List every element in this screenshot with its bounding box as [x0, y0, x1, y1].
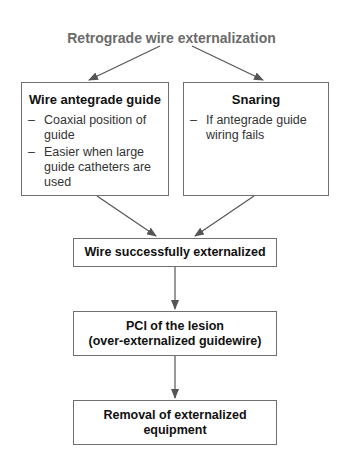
step-pci-lesion: PCI of the lesion (over-externalized gui…	[73, 311, 277, 356]
arrow-right-to-step1	[195, 196, 254, 236]
list-item: –Coaxial position of guide	[22, 113, 168, 143]
wire-antegrade-guide-box: Wire antegrade guide –Coaxial position o…	[21, 82, 169, 196]
step-removal-equipment: Removal of externalized equipment	[73, 400, 277, 445]
box-heading: Snaring	[184, 92, 328, 107]
bullet-list: –If antegrade guide wiring fails	[184, 113, 328, 143]
box-heading: Wire antegrade guide	[22, 92, 168, 107]
step-wire-externalized: Wire successfully externalized	[73, 238, 277, 267]
list-item: –Easier when large guide catheters are u…	[22, 145, 168, 190]
list-item: –If antegrade guide wiring fails	[184, 113, 328, 143]
bullet-list: –Coaxial position of guide –Easier when …	[22, 113, 168, 190]
arrow-to-left-box	[89, 46, 160, 80]
arrow-to-right-box	[192, 46, 263, 80]
arrow-left-to-step1	[97, 196, 156, 236]
snaring-box: Snaring –If antegrade guide wiring fails	[183, 82, 329, 196]
